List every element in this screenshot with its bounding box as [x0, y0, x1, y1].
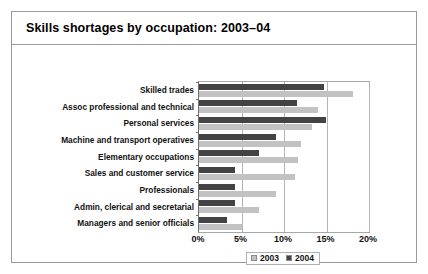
bar-2004 [199, 117, 326, 123]
bar-group: Professionals [199, 182, 369, 199]
bar-2004 [199, 184, 235, 190]
bar-2003 [199, 107, 318, 113]
category-label: Elementary occupations [98, 149, 194, 166]
chart-figure: Skills shortages by occupation: 2003–04 … [11, 11, 417, 263]
category-label: Skilled trades [140, 82, 194, 99]
bar-group: Managers and senior officials [199, 215, 369, 232]
category-label: Professionals [140, 182, 194, 199]
chart-title-band: Skills shortages by occupation: 2003–04 [12, 12, 416, 45]
legend-entry-2003: 2003 [251, 254, 279, 263]
bar-group: Skilled trades [199, 82, 369, 99]
bar-2003 [199, 207, 259, 213]
legend-box: 20032004 [246, 252, 320, 265]
bar-group: Assoc professional and technical [199, 99, 369, 116]
category-label: Assoc professional and technical [62, 99, 194, 116]
bar-group: Admin, clerical and secretarial [199, 199, 369, 216]
bar-2003 [199, 191, 276, 197]
bar-2004 [199, 134, 276, 140]
bar-2004 [199, 84, 324, 90]
bar-2004 [199, 217, 227, 223]
bar-group: Machine and transport operatives [199, 132, 369, 149]
category-label: Sales and customer service [85, 165, 194, 182]
bar-2003 [199, 91, 353, 97]
category-label: Machine and transport operatives [61, 132, 194, 149]
bar-2004 [199, 100, 297, 106]
legend-label: 2003 [260, 254, 279, 263]
page-title: Skills shortages by occupation: 2003–04 [26, 21, 270, 35]
bar-2003 [199, 124, 312, 130]
bar-2003 [199, 224, 242, 230]
bar-2003 [199, 157, 298, 163]
legend-label: 2004 [295, 254, 314, 263]
chart-body: Skilled tradesAssoc professional and tec… [12, 45, 416, 262]
x-tick-label: 20% [359, 234, 377, 244]
bar-2003 [199, 141, 301, 147]
legend-swatch-icon [251, 255, 257, 261]
bar-2004 [199, 150, 259, 156]
plot-area: Skilled tradesAssoc professional and tec… [198, 81, 370, 233]
bar-2003 [199, 174, 295, 180]
bar-2004 [199, 200, 235, 206]
category-label: Admin, clerical and secretarial [74, 199, 194, 216]
category-label: Managers and senior officials [77, 215, 194, 232]
bar-2004 [199, 167, 235, 173]
bar-group: Personal services [199, 115, 369, 132]
category-label: Personal services [123, 115, 194, 132]
x-tick-label: 0% [191, 234, 204, 244]
x-tick-label: 15% [316, 234, 334, 244]
bar-group: Elementary occupations [199, 149, 369, 166]
gridline [369, 82, 370, 232]
legend-swatch-icon [286, 255, 292, 261]
legend: 20032004 [198, 252, 368, 265]
bar-rows: Skilled tradesAssoc professional and tec… [199, 82, 369, 232]
bar-group: Sales and customer service [199, 165, 369, 182]
legend-entry-2004: 2004 [286, 254, 314, 263]
x-tick-label: 10% [274, 234, 292, 244]
x-tick-label: 5% [234, 234, 247, 244]
